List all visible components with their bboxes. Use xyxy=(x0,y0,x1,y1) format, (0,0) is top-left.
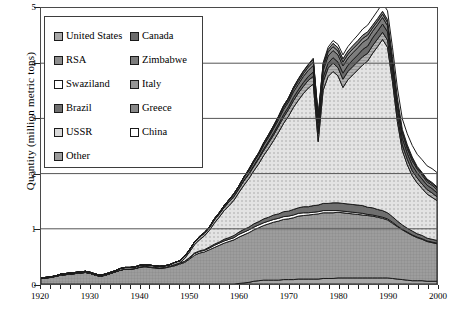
legend-item-label: Swaziland xyxy=(66,79,110,90)
legend-swatch-icon xyxy=(54,32,63,41)
x-axis-tick-mark xyxy=(189,285,190,289)
legend-item-label: USSR xyxy=(66,127,92,138)
x-axis-tick-mark xyxy=(80,285,81,289)
chart-legend: United StatesRSASwazilandBrazilUSSROther… xyxy=(44,16,203,168)
x-axis-tick-mark xyxy=(358,285,359,289)
x-axis-tick-mark xyxy=(70,285,71,289)
legend-item[interactable]: United States xyxy=(54,24,122,48)
x-axis-tick-mark xyxy=(140,285,141,289)
legend-item[interactable]: Brazil xyxy=(54,96,122,120)
y-axis-tick-label: 1 xyxy=(16,225,36,234)
x-axis-tick-mark xyxy=(229,285,230,289)
legend-swatch-icon xyxy=(54,80,63,89)
x-axis-tick-mark xyxy=(90,285,91,289)
legend-item[interactable]: Greece xyxy=(130,96,187,120)
legend-item[interactable]: Canada xyxy=(130,24,187,48)
legend-swatch-icon xyxy=(130,128,139,137)
legend-swatch-icon xyxy=(54,104,63,113)
legend-item[interactable]: Italy xyxy=(130,72,187,96)
x-axis-tick-mark xyxy=(110,285,111,289)
legend-item-label: Brazil xyxy=(66,103,92,114)
x-axis-tick-label: 1990 xyxy=(368,292,408,301)
x-axis-tick-mark xyxy=(120,285,121,289)
x-axis-tick-mark xyxy=(299,285,300,289)
y-axis-tick-label: 3 xyxy=(16,114,36,123)
legend-item[interactable]: USSR xyxy=(54,120,122,144)
x-axis-tick-label: 1950 xyxy=(169,292,209,301)
x-axis-tick-mark xyxy=(438,285,439,289)
legend-swatch-icon xyxy=(130,80,139,89)
y-axis-tick-label: 4 xyxy=(16,59,36,68)
x-axis-tick-mark xyxy=(259,285,260,289)
x-axis-tick-mark xyxy=(388,285,389,289)
x-axis-tick-mark xyxy=(428,285,429,289)
x-axis-tick-mark xyxy=(159,285,160,289)
y-axis-tick-label: 0 xyxy=(16,281,36,290)
x-axis-tick-mark xyxy=(100,285,101,289)
x-axis-tick-mark xyxy=(60,285,61,289)
legend-swatch-icon xyxy=(130,104,139,113)
y-axis-tick-label: 5 xyxy=(16,3,36,12)
legend-swatch-icon xyxy=(54,56,63,65)
x-axis-tick-mark xyxy=(348,285,349,289)
x-axis-tick-mark xyxy=(398,285,399,289)
legend-item-label: United States xyxy=(66,31,122,42)
x-axis-tick-mark xyxy=(289,285,290,289)
x-axis-tick-mark xyxy=(269,285,270,289)
x-axis-tick-mark xyxy=(368,285,369,289)
x-axis-tick-label: 1980 xyxy=(319,292,359,301)
x-axis-tick-label: 2000 xyxy=(418,292,450,301)
chart-figure: Quantity (million metric tons) 012345 19… xyxy=(0,0,450,309)
x-axis-tick-mark xyxy=(249,285,250,289)
x-axis-tick-mark xyxy=(319,285,320,289)
legend-item-label: China xyxy=(142,127,167,138)
legend-item-label: Greece xyxy=(142,103,172,114)
x-axis-tick-mark xyxy=(378,285,379,289)
x-axis-tick-mark xyxy=(169,285,170,289)
y-axis-tick-label: 2 xyxy=(16,170,36,179)
legend-item-label: Canada xyxy=(142,31,174,42)
legend-item-label: Italy xyxy=(142,79,161,90)
x-axis-tick-mark xyxy=(418,285,419,289)
legend-column-1: United StatesRSASwazilandBrazilUSSROther xyxy=(54,24,122,168)
x-axis-tick-label: 1940 xyxy=(120,292,160,301)
legend-item[interactable]: Other xyxy=(54,144,122,168)
legend-item[interactable]: Zimbabwe xyxy=(130,48,187,72)
x-axis-tick-mark xyxy=(149,285,150,289)
legend-item-label: Zimbabwe xyxy=(142,55,187,66)
y-axis-tick-labels: 012345 xyxy=(14,0,36,309)
x-axis-tick-mark xyxy=(239,285,240,289)
x-axis-tick-label: 1920 xyxy=(20,292,60,301)
legend-swatch-icon xyxy=(54,152,63,161)
x-axis-tick-mark xyxy=(50,285,51,289)
x-axis-tick-label: 1930 xyxy=(70,292,110,301)
x-axis-tick-mark xyxy=(179,285,180,289)
x-axis-tick-mark xyxy=(40,285,41,289)
legend-column-2: CanadaZimbabweItalyGreeceChina xyxy=(130,24,187,144)
legend-swatch-icon xyxy=(130,32,139,41)
legend-swatch-icon xyxy=(54,128,63,137)
x-axis-tick-label: 1970 xyxy=(269,292,309,301)
x-axis-tick-mark xyxy=(130,285,131,289)
x-axis-tick-mark xyxy=(309,285,310,289)
x-axis-tick-mark xyxy=(279,285,280,289)
x-axis-tick-label: 1960 xyxy=(219,292,259,301)
legend-item[interactable]: China xyxy=(130,120,187,144)
legend-item-label: Other xyxy=(66,151,90,162)
legend-item-label: RSA xyxy=(66,55,86,66)
x-axis-tick-mark xyxy=(408,285,409,289)
legend-item[interactable]: RSA xyxy=(54,48,122,72)
x-axis-tick-mark xyxy=(209,285,210,289)
legend-item[interactable]: Swaziland xyxy=(54,72,122,96)
x-axis-tick-mark xyxy=(219,285,220,289)
x-axis-tick-mark xyxy=(329,285,330,289)
legend-swatch-icon xyxy=(130,56,139,65)
x-axis-tick-mark xyxy=(339,285,340,289)
x-axis-tick-mark xyxy=(199,285,200,289)
